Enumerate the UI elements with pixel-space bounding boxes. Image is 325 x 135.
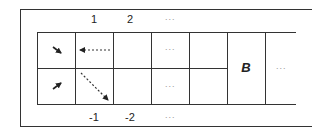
- arrow-row1-col0-icon: [53, 47, 61, 53]
- arrow-row2-col1-dashed-diagonal-icon: [81, 73, 108, 100]
- bottom-label-ellipsis: ···: [155, 112, 185, 122]
- bottom-label-neg1: -1: [79, 111, 109, 123]
- bottom-label-neg2: -2: [115, 111, 145, 123]
- arrow-row2-col0-icon: [53, 83, 61, 89]
